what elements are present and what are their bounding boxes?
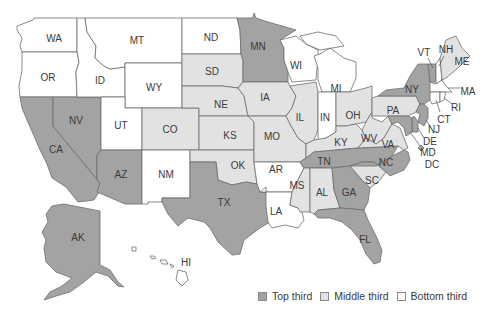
- leader-line-md: [410, 132, 420, 146]
- state-AK: [42, 204, 124, 300]
- label-NC: NC: [379, 157, 393, 168]
- label-FL: FL: [359, 234, 371, 245]
- label-WV: WV: [361, 133, 377, 144]
- legend-swatch-middle: [320, 292, 329, 301]
- state-CT: [430, 92, 440, 104]
- label-CA: CA: [49, 144, 63, 155]
- label-NJ: NJ: [428, 124, 440, 135]
- label-MT: MT: [130, 35, 144, 46]
- label-MI: MI: [330, 83, 341, 94]
- legend-swatch-bottom: [397, 292, 406, 301]
- label-IA: IA: [260, 92, 270, 103]
- legend-item-bottom: Bottom third: [397, 290, 468, 302]
- state-RI: [440, 92, 446, 102]
- state-HI: [132, 247, 188, 286]
- legend: Top third Middle third Bottom third: [258, 290, 475, 302]
- label-TX: TX: [218, 197, 231, 208]
- label-NY: NY: [405, 84, 419, 95]
- legend-label-bottom: Bottom third: [411, 290, 468, 302]
- label-SD: SD: [205, 66, 219, 77]
- label-PA: PA: [387, 105, 400, 116]
- legend-item-middle: Middle third: [320, 290, 388, 302]
- label-TN: TN: [317, 156, 330, 167]
- label-NM: NM: [158, 169, 174, 180]
- label-LA: LA: [270, 206, 283, 217]
- label-MA: MA: [461, 86, 476, 97]
- legend-item-top: Top third: [258, 290, 312, 302]
- label-AR: AR: [269, 164, 283, 175]
- label-ID: ID: [95, 75, 105, 86]
- label-RI: RI: [451, 102, 461, 113]
- legend-swatch-top: [258, 292, 267, 301]
- label-OR: OR: [41, 72, 56, 83]
- label-WY: WY: [146, 82, 162, 93]
- label-IN: IN: [320, 112, 330, 123]
- label-OK: OK: [231, 160, 246, 171]
- label-NE: NE: [214, 99, 228, 110]
- label-MD: MD: [420, 147, 436, 158]
- label-MN: MN: [250, 41, 266, 52]
- state-FL: [314, 208, 382, 264]
- state-DE: [412, 116, 418, 132]
- us-choropleth-map: WA OR CA NV ID MT WY UT AZ CO NM ND SD N…: [0, 0, 492, 319]
- label-WA: WA: [46, 33, 62, 44]
- label-ND: ND: [204, 32, 218, 43]
- label-WI: WI: [290, 60, 302, 71]
- label-AZ: AZ: [115, 169, 128, 180]
- label-IL: IL: [296, 112, 305, 123]
- label-AK: AK: [71, 232, 85, 243]
- label-KS: KS: [223, 130, 237, 141]
- legend-label-top: Top third: [272, 290, 312, 302]
- label-HI: HI: [181, 257, 191, 268]
- label-CO: CO: [163, 124, 178, 135]
- label-SC: SC: [365, 175, 379, 186]
- label-NV: NV: [69, 115, 83, 126]
- label-AL: AL: [316, 187, 329, 198]
- label-MS: MS: [290, 180, 305, 191]
- label-VA: VA: [382, 139, 395, 150]
- label-GA: GA: [342, 187, 357, 198]
- label-UT: UT: [114, 120, 127, 131]
- label-VT: VT: [418, 47, 431, 58]
- legend-label-middle: Middle third: [334, 290, 388, 302]
- label-DC: DC: [425, 159, 439, 170]
- label-MO: MO: [264, 131, 280, 142]
- label-OH: OH: [346, 110, 361, 121]
- label-KY: KY: [334, 137, 348, 148]
- label-ME: ME: [455, 56, 470, 67]
- label-NH: NH: [439, 44, 453, 55]
- label-DE: DE: [423, 136, 437, 147]
